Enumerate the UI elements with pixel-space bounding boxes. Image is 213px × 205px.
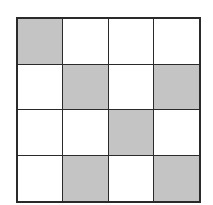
empty-cell (109, 19, 154, 65)
empty-cell (109, 156, 154, 202)
shaded-cell (154, 65, 199, 111)
empty-cell (18, 156, 63, 202)
empty-cell (154, 110, 199, 156)
empty-cell (63, 110, 108, 156)
empty-cell (109, 65, 154, 111)
empty-cell (18, 65, 63, 111)
empty-cell (154, 19, 199, 65)
shaded-cell (154, 156, 199, 202)
empty-cell (18, 110, 63, 156)
shaded-cell (63, 65, 108, 111)
checker-grid (16, 17, 201, 203)
shaded-cell (63, 156, 108, 202)
empty-cell (63, 19, 108, 65)
shaded-cell (109, 110, 154, 156)
shaded-cell (18, 19, 63, 65)
